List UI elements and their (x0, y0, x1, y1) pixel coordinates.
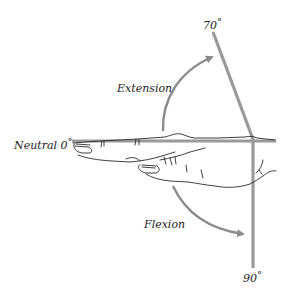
flexion-angle-label: 90° (243, 270, 262, 284)
degree-symbol: ° (67, 136, 72, 147)
degree-symbol: ° (217, 16, 222, 27)
extension-label: Extension (117, 83, 172, 94)
neutral-label: Neutral 0° (14, 137, 72, 151)
flexion-label: Flexion (144, 219, 185, 230)
extension-angle-value: 70 (203, 19, 217, 32)
degree-symbol: ° (257, 269, 262, 280)
wrist-rom-diagram: 70° Extension Neutral 0° Flexion 90° (0, 0, 290, 299)
flexion-angle-value: 90 (243, 272, 257, 285)
extension-angle-label: 70° (203, 17, 222, 31)
extension-70-reference-line (213, 32, 254, 142)
neutral-label-text: Neutral 0 (14, 139, 67, 152)
